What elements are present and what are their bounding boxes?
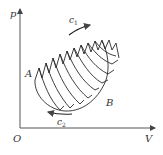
p-axis-label: p <box>10 8 17 19</box>
point-b-label: B <box>105 97 113 108</box>
c2-label: c2 <box>57 117 66 128</box>
upper-curve-c1 <box>35 40 119 80</box>
lower-curve-c2 <box>35 41 108 111</box>
origin-label: O <box>13 133 21 144</box>
c1-direction-arrow <box>69 25 90 35</box>
axes <box>20 9 155 128</box>
c1-label: c1 <box>69 15 78 26</box>
point-a-label: A <box>24 68 32 79</box>
c2-direction-arrow <box>48 112 72 114</box>
pv-diagram: p V O A B c1 c2 <box>0 0 163 155</box>
v-axis-label: V <box>145 133 154 144</box>
diagram-svg: p V O A B c1 c2 <box>0 0 163 155</box>
